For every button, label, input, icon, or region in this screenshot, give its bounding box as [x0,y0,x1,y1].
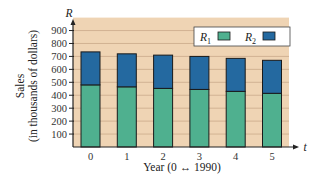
bar-segment-r2 [226,58,245,91]
legend: R1R2 [194,27,290,46]
y-tick-label: 600 [51,64,67,75]
bar-segment-r1 [81,85,100,147]
x-axis-arrow-icon [293,145,299,150]
y-axis-symbol: R [64,7,72,19]
x-tick-label: 0 [88,151,93,162]
legend-swatch-r2 [263,32,275,40]
bar-segment-r1 [263,93,282,147]
bar-group-5 [263,60,282,147]
bar-segment-r1 [226,91,245,147]
y-tick-labels: 100200300400500600700800900 [51,25,74,140]
y-tick-label: 500 [51,77,67,88]
bar-group-0 [81,52,100,147]
y-tick-label: 800 [51,38,67,49]
bar-segment-r1 [117,87,136,147]
x-tick-label: 5 [269,151,274,162]
legend-swatch-r1 [218,32,230,40]
y-tick-label: 300 [51,103,67,114]
bar-segment-r2 [154,55,173,88]
x-axis-symbol: t [303,141,307,153]
y-tick-label: 400 [51,90,67,101]
y-tick-label: 900 [51,25,67,36]
stacked-bar-chart: R t 100200300400500600700800900 012345 Y… [0,0,312,180]
x-tick-label: 4 [233,151,239,162]
bar-segment-r1 [154,88,173,147]
y-axis-title-line2: (in thousands of dollars) [27,30,40,142]
bar-segment-r2 [190,56,209,89]
y-tick-label: 200 [51,116,67,127]
bar-segment-r2 [117,54,136,87]
bar-group-1 [117,54,136,147]
bar-segment-r1 [190,89,209,147]
bar-group-3 [190,56,209,147]
y-tick-label: 700 [51,51,67,62]
y-axis-title-line1: Sales [14,73,26,98]
y-axis-title: Sales (in thousands of dollars) [14,30,40,142]
y-tick-label: 100 [51,129,67,140]
bar-group-4 [226,58,245,147]
x-tick-label: 1 [124,151,129,162]
bar-segment-r2 [81,52,100,85]
bar-group-2 [154,55,173,147]
bar-segment-r2 [263,60,282,93]
x-axis-title: Year (0 ↔ 1990) [143,161,221,174]
